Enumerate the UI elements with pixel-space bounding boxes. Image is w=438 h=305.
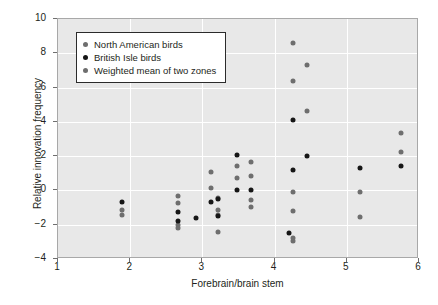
y-tick-label: 10: [0, 13, 46, 23]
data-point: [290, 41, 295, 46]
y-tick-label: 8: [0, 47, 46, 57]
x-tick-mark: [346, 258, 347, 262]
x-tick-label: 2: [114, 262, 144, 272]
data-point: [290, 209, 295, 214]
data-point: [290, 78, 295, 83]
data-point: [175, 201, 180, 206]
data-point: [209, 200, 214, 205]
x-tick-label: 4: [259, 262, 289, 272]
y-tick-label: −2: [0, 219, 46, 229]
data-point: [193, 215, 198, 220]
data-point: [357, 190, 362, 195]
x-tick-label: 6: [403, 262, 433, 272]
x-tick-mark: [201, 258, 202, 262]
legend-marker-icon: [83, 42, 88, 47]
legend-item: North American birds: [83, 38, 216, 51]
data-point: [357, 166, 362, 171]
data-point: [398, 131, 403, 136]
data-point: [235, 153, 240, 158]
data-point: [216, 197, 221, 202]
data-point: [290, 167, 295, 172]
legend-marker-icon: [83, 55, 88, 60]
gridline-vertical: [347, 19, 348, 257]
data-point: [398, 149, 403, 154]
data-point: [357, 215, 362, 220]
data-point: [175, 193, 180, 198]
y-tick-label: 2: [0, 150, 46, 160]
y-tick-label: 4: [0, 116, 46, 126]
data-point: [305, 108, 310, 113]
x-tick-label: 5: [331, 262, 361, 272]
x-tick-mark: [129, 258, 130, 262]
gridline-horizontal: [58, 122, 417, 123]
data-point: [290, 118, 295, 123]
data-point: [175, 209, 180, 214]
data-point: [216, 214, 221, 219]
legend-label: Weighted mean of two zones: [94, 64, 216, 77]
data-point: [235, 188, 240, 193]
legend-item: Weighted mean of two zones: [83, 64, 216, 77]
y-tick-label: 6: [0, 82, 46, 92]
scatter-chart-figure: Relative innovation frequency Forebrain/…: [0, 0, 438, 305]
gridline-vertical: [275, 19, 276, 257]
gridline-horizontal: [58, 225, 417, 226]
y-tick-label: 0: [0, 184, 46, 194]
data-point: [398, 164, 403, 169]
y-tick-label: −4: [0, 253, 46, 263]
data-point: [235, 176, 240, 181]
legend-label: North American birds: [94, 38, 183, 51]
data-point: [305, 154, 310, 159]
x-tick-label: 1: [42, 262, 72, 272]
data-point: [209, 170, 214, 175]
data-point: [175, 219, 180, 224]
data-point: [290, 190, 295, 195]
data-point: [235, 164, 240, 169]
legend-marker-icon: [83, 68, 88, 73]
data-point: [175, 226, 180, 231]
data-point: [305, 63, 310, 68]
data-point: [249, 160, 254, 165]
chart-legend: North American birdsBritish Isle birdsWe…: [76, 32, 226, 83]
legend-label: British Isle birds: [94, 51, 161, 64]
data-point: [216, 229, 221, 234]
data-point: [290, 239, 295, 244]
x-tick-mark: [57, 258, 58, 262]
legend-item: British Isle birds: [83, 51, 216, 64]
data-point: [249, 188, 254, 193]
data-point: [209, 185, 214, 190]
x-tick-mark: [274, 258, 275, 262]
data-point: [249, 204, 254, 209]
data-point: [249, 173, 254, 178]
y-axis-label: Relative innovation frequency: [32, 44, 43, 244]
x-axis-label: Forebrain/brain stem: [57, 278, 418, 289]
x-tick-mark: [418, 258, 419, 262]
data-point: [119, 213, 124, 218]
data-point: [249, 197, 254, 202]
data-point: [119, 200, 124, 205]
x-tick-label: 3: [186, 262, 216, 272]
data-point: [287, 231, 292, 236]
gridline-horizontal: [58, 88, 417, 89]
